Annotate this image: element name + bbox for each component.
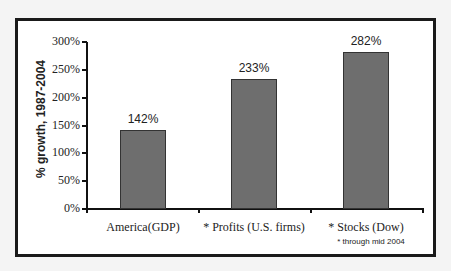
- category-label: * Profits (U.S. firms): [194, 220, 314, 235]
- bar-value-label: 233%: [214, 61, 294, 75]
- bar-value-label: 282%: [326, 34, 406, 48]
- y-tick: [82, 69, 87, 71]
- category-label: * Stocks (Dow): [306, 220, 426, 235]
- y-tick-label: 250%: [30, 62, 80, 77]
- footnote: * through mid 2004: [326, 237, 416, 246]
- y-tick-label: 200%: [30, 90, 80, 105]
- bar: [231, 79, 277, 209]
- y-tick: [82, 152, 87, 154]
- x-tick: [422, 208, 424, 213]
- y-tick-label: 150%: [30, 118, 80, 133]
- y-tick-label: 50%: [30, 173, 80, 188]
- y-tick: [82, 41, 87, 43]
- bar-value-label: 142%: [103, 112, 183, 126]
- x-tick: [198, 208, 200, 213]
- y-tick-label: 0%: [30, 201, 80, 216]
- y-tick-label: 300%: [30, 34, 80, 49]
- x-tick: [310, 208, 312, 213]
- y-tick-label: 100%: [30, 145, 80, 160]
- y-tick: [82, 97, 87, 99]
- bar: [120, 130, 166, 209]
- y-tick: [82, 125, 87, 127]
- y-tick: [82, 180, 87, 182]
- category-label: America(GDP): [83, 220, 203, 235]
- x-tick: [86, 208, 88, 213]
- bar: [343, 52, 389, 209]
